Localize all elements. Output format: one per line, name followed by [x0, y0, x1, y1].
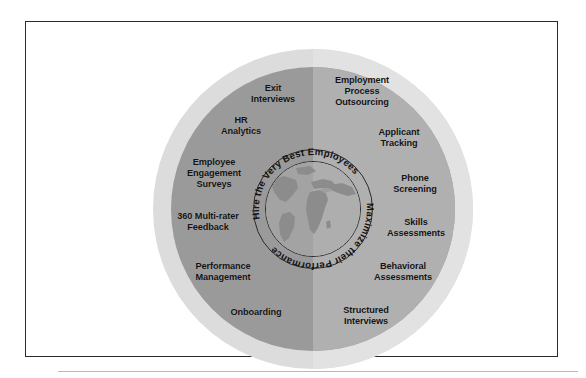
- label-employment-process-outsourcing: Employment Process Outsourcing: [319, 75, 405, 109]
- footer-rule: [58, 371, 578, 372]
- label-hr-analytics: HR Analytics: [203, 115, 279, 137]
- label-structured-interviews: Structured Interviews: [325, 305, 407, 327]
- label-skills-assessments: Skills Assessments: [377, 217, 455, 239]
- label-exit-interviews: Exit Interviews: [235, 83, 311, 105]
- figure-frame: Maximize their Performance Hire the Very…: [25, 21, 558, 357]
- label-360-multi-rater-feedback: 360 Multi-rater Feedback: [156, 211, 260, 233]
- talent-lifecycle-wheel: Maximize their Performance Hire the Very…: [153, 49, 473, 369]
- label-behavioral-assessments: Behavioral Assessments: [361, 261, 445, 283]
- label-employee-engagement-surveys: Employee Engagement Surveys: [168, 157, 260, 191]
- label-onboarding: Onboarding: [215, 307, 297, 318]
- globe-icon: [266, 162, 360, 256]
- label-performance-management: Performance Management: [175, 261, 271, 283]
- label-applicant-tracking: Applicant Tracking: [361, 127, 437, 149]
- label-phone-screening: Phone Screening: [379, 173, 451, 195]
